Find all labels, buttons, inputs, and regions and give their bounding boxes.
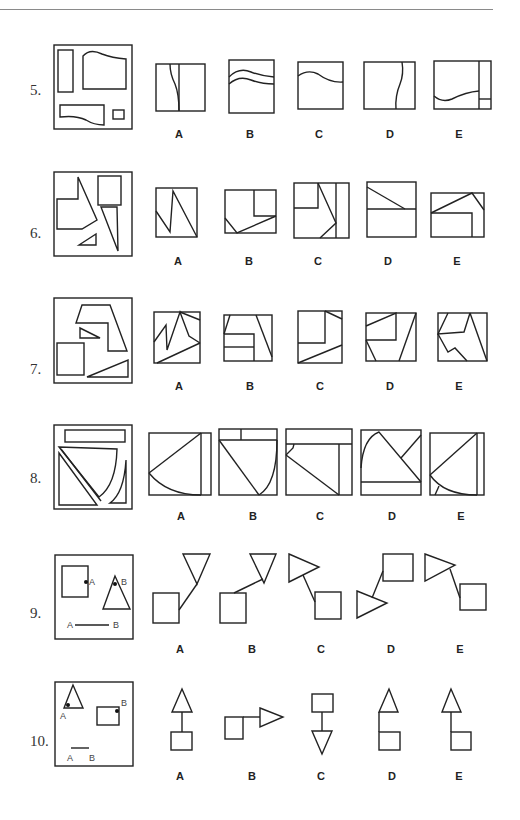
q6-option-b-figure[interactable] — [225, 190, 277, 234]
q8-option-b-label[interactable]: B — [243, 510, 263, 522]
q5-option-a-figure[interactable] — [156, 64, 206, 112]
q9-point-a-label: A — [89, 577, 95, 587]
q9-option-e-figure[interactable] — [424, 553, 484, 635]
q5-option-a-label[interactable]: A — [169, 128, 189, 140]
question-number-6: 6. — [30, 225, 41, 242]
q8-option-a-label[interactable]: A — [171, 510, 191, 522]
q10-option-d-figure[interactable] — [378, 688, 408, 754]
q9-segment-a-label: A — [67, 620, 73, 630]
q9-option-c-label[interactable]: C — [311, 643, 331, 655]
q9-option-a-figure[interactable] — [152, 553, 212, 635]
q8-option-e-label[interactable]: E — [451, 510, 471, 522]
q6-option-c-label[interactable]: C — [308, 255, 328, 267]
q9-option-b-label[interactable]: B — [242, 643, 262, 655]
q5-option-d-figure[interactable] — [364, 62, 416, 110]
q7-option-b-figure[interactable] — [224, 315, 274, 363]
top-rule-divider — [0, 9, 493, 10]
q10-option-c-figure[interactable] — [310, 693, 340, 759]
q9-option-e-label[interactable]: E — [450, 643, 470, 655]
q5-option-d-label[interactable]: D — [380, 128, 400, 140]
q7-option-e-figure[interactable] — [438, 313, 488, 363]
q10-option-c-label[interactable]: C — [311, 770, 331, 782]
q9-option-b-figure[interactable] — [219, 553, 279, 635]
q6-option-e-figure[interactable] — [431, 193, 485, 238]
q7-option-c-figure[interactable] — [298, 311, 344, 365]
q10-option-e-figure[interactable] — [441, 688, 475, 754]
question-number-9: 9. — [30, 605, 41, 622]
q6-option-d-figure[interactable] — [367, 182, 417, 238]
q8-option-c-label[interactable]: C — [310, 510, 330, 522]
q9-segment-b-label: B — [113, 620, 119, 630]
q10-option-b-label[interactable]: B — [242, 770, 262, 782]
q10-point-a-label: A — [60, 711, 66, 721]
q9-option-c-figure[interactable] — [288, 553, 348, 635]
q5-option-b-figure[interactable] — [229, 60, 275, 114]
q9-point-b-label: B — [121, 577, 127, 587]
q10-prompt-figure: A B A B — [55, 682, 135, 768]
q7-option-a-label[interactable]: A — [169, 380, 189, 392]
q8-option-d-label[interactable]: D — [382, 510, 402, 522]
q8-option-c-figure[interactable] — [286, 429, 354, 497]
q6-option-a-figure[interactable] — [156, 188, 198, 238]
q6-option-c-figure[interactable] — [294, 183, 350, 239]
q6-option-d-label[interactable]: D — [378, 255, 398, 267]
q10-segment-b-label: B — [89, 753, 95, 763]
q5-option-e-figure[interactable] — [434, 61, 492, 110]
q6-prompt-figure — [54, 172, 134, 258]
q10-option-e-label[interactable]: E — [449, 770, 469, 782]
q8-prompt-figure — [54, 425, 134, 511]
q8-option-b-figure[interactable] — [219, 429, 279, 497]
q7-prompt-figure — [54, 298, 134, 384]
question-number-10: 10. — [30, 733, 49, 750]
q10-option-d-label[interactable]: D — [382, 770, 402, 782]
q9-option-a-label[interactable]: A — [170, 643, 190, 655]
q7-option-a-figure[interactable] — [154, 312, 202, 364]
q10-option-a-label[interactable]: A — [170, 770, 190, 782]
q6-option-e-label[interactable]: E — [447, 255, 467, 267]
q5-option-b-label[interactable]: B — [240, 128, 260, 140]
q7-option-b-label[interactable]: B — [240, 380, 260, 392]
q7-option-d-figure[interactable] — [366, 313, 418, 363]
question-number-7: 7. — [30, 361, 41, 378]
q8-option-a-figure[interactable] — [149, 433, 213, 497]
q10-option-b-figure[interactable] — [224, 707, 286, 747]
q10-option-a-figure[interactable] — [168, 688, 198, 754]
question-number-8: 8. — [30, 470, 41, 487]
q8-option-d-figure[interactable] — [361, 430, 423, 497]
q10-segment-a-label: A — [67, 753, 73, 763]
q7-option-e-label[interactable]: E — [449, 380, 469, 392]
q5-option-c-figure[interactable] — [298, 62, 344, 110]
q7-option-c-label[interactable]: C — [310, 380, 330, 392]
q9-option-d-label[interactable]: D — [381, 643, 401, 655]
q5-option-c-label[interactable]: C — [309, 128, 329, 140]
q6-option-b-label[interactable]: B — [239, 255, 259, 267]
q5-option-e-label[interactable]: E — [449, 128, 469, 140]
question-number-5: 5. — [30, 82, 41, 99]
q5-prompt-figure — [54, 45, 134, 131]
q9-prompt-figure: A B A B — [55, 555, 135, 641]
q9-option-d-figure[interactable] — [356, 553, 416, 635]
q10-point-b-label: B — [121, 698, 127, 708]
q6-option-a-label[interactable]: A — [168, 255, 188, 267]
q7-option-d-label[interactable]: D — [380, 380, 400, 392]
q8-option-e-figure[interactable] — [430, 433, 486, 497]
